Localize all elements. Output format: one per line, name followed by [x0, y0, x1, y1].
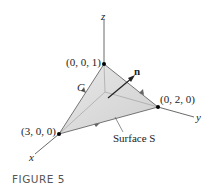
x-axis	[35, 134, 59, 154]
figure-caption: FIGURE 5	[12, 173, 65, 185]
surface-triangle	[59, 64, 158, 134]
y-axis-label: y	[195, 111, 201, 123]
surface-leader	[115, 117, 123, 132]
surface-label: Surface S	[113, 132, 155, 144]
point-label-y: (0, 2, 0)	[160, 93, 195, 106]
normal-label: n	[134, 65, 140, 77]
z-axis-label: z	[100, 10, 106, 22]
figure-diagram: z y x (0, 0, 1) (0, 2, 0) (3, 0, 0) C n …	[0, 0, 215, 191]
point-label-x: (3, 0, 0)	[21, 125, 56, 138]
point-label-z: (0, 0, 1)	[66, 56, 101, 69]
point-y	[156, 105, 160, 109]
point-z	[102, 62, 106, 66]
x-axis-label: x	[28, 151, 34, 163]
point-x	[57, 132, 61, 136]
y-axis	[158, 107, 194, 117]
curve-label: C	[77, 81, 85, 93]
